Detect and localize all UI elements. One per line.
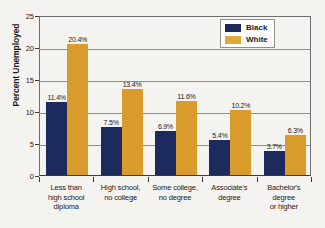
legend-item-black: Black xyxy=(225,23,268,32)
bar-white xyxy=(176,101,197,175)
x-axis-tick-label-line: or higher xyxy=(254,202,314,212)
bar-black xyxy=(155,131,176,175)
bar-black xyxy=(209,140,230,175)
bar-group: 7.5%13.4% xyxy=(94,17,148,175)
bar-black xyxy=(46,102,67,175)
bar-group: 6.9%11.6% xyxy=(149,17,203,175)
chart-legend: Black White xyxy=(220,19,275,48)
bar-value-label: 13.4% xyxy=(118,81,147,88)
y-axis-tick-label: 25 xyxy=(14,12,34,21)
bar-value-label: 10.2% xyxy=(226,102,255,109)
y-axis-tick-label: 10 xyxy=(14,108,34,117)
unemployment-by-education-bar-chart: Percent Unemployed 0510152025 11.4%20.4%… xyxy=(0,0,325,228)
x-axis-tick-label-line: Less than xyxy=(36,183,96,193)
x-axis-tick-label-line: no college xyxy=(90,193,150,203)
x-axis-tick-mark xyxy=(257,177,258,182)
x-axis-tick-label: Some college,no degree xyxy=(145,183,205,202)
x-axis-tick-label-line: High school, xyxy=(90,183,150,193)
y-axis-tick-label: 20 xyxy=(14,44,34,53)
y-axis-tick-label: 5 xyxy=(14,140,34,149)
x-axis-tick-label: High school,no college xyxy=(90,183,150,202)
legend-item-white: White xyxy=(225,35,268,44)
x-axis-tick-label-line: degree xyxy=(199,193,259,203)
bar-group: 11.4%20.4% xyxy=(40,17,94,175)
x-axis-tick-label-line: diploma xyxy=(36,202,96,212)
x-axis-tick-mark xyxy=(93,177,94,182)
x-axis-tick-label-line: Bachelor's xyxy=(254,183,314,193)
y-axis-tick-label: 15 xyxy=(14,76,34,85)
bar-black xyxy=(101,127,122,175)
bar-white xyxy=(285,135,306,175)
bar-value-label: 20.4% xyxy=(63,36,92,43)
bar-white xyxy=(122,89,143,175)
x-axis-tick-label-line: Associate's xyxy=(199,183,259,193)
x-axis-tick-mark xyxy=(202,177,203,182)
x-axis-tick-label: Less thanhigh schooldiploma xyxy=(36,183,96,212)
x-axis-tick-label-line: degree xyxy=(254,193,314,203)
legend-swatch-white-icon xyxy=(225,36,241,44)
bar-black xyxy=(264,151,285,175)
x-axis-tick-label-line: no degree xyxy=(145,193,205,203)
x-axis-tick-mark xyxy=(148,177,149,182)
y-axis-tick-label: 0 xyxy=(14,172,34,181)
x-axis-tick-label-line: Some college, xyxy=(145,183,205,193)
x-axis-tick-label-line: high school xyxy=(36,193,96,203)
legend-swatch-black-icon xyxy=(225,24,241,32)
x-axis-tick-label: Bachelor'sdegreeor higher xyxy=(254,183,314,212)
y-axis-title: Percent Unemployed xyxy=(11,5,21,125)
bar-value-label: 11.6% xyxy=(172,93,201,100)
x-axis-tick-mark xyxy=(39,177,40,182)
bar-white xyxy=(230,110,251,175)
x-axis-tick-mark xyxy=(311,177,312,182)
legend-label-black: Black xyxy=(246,23,267,32)
x-axis-tick-label: Associate'sdegree xyxy=(199,183,259,202)
bar-white xyxy=(67,44,88,175)
bar-value-label: 6.3% xyxy=(281,127,310,134)
legend-label-white: White xyxy=(246,35,268,44)
